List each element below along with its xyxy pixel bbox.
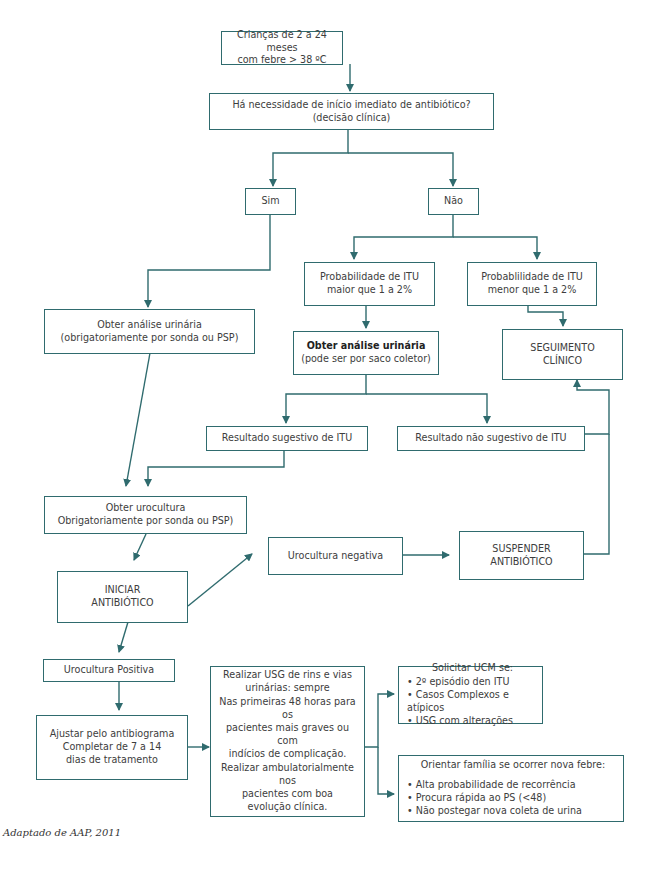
node-nao-label: Não — [444, 195, 463, 208]
node-seguimento-line-1: SEGUIMENTO — [530, 342, 594, 355]
node-prob-maior-line-2: maior que 1 a 2% — [327, 284, 412, 297]
node-orientar-item: Procura rápida ao PS (<48) — [407, 792, 546, 805]
node-sim: Sim — [245, 188, 296, 215]
node-usg: Realizar USG de rins e vias urinárias: s… — [210, 666, 365, 817]
node-start-line-2: com febre > 38 ºC — [237, 54, 326, 67]
node-urocultura: Obter urocultura Obrigatoriamente por so… — [44, 496, 247, 534]
node-usg-p1-line-1: Realizar USG de rins e vias — [223, 669, 352, 682]
node-urocultura-line-2: Obrigatoriamente por sonda ou PSP) — [58, 515, 234, 528]
node-seguimento: SEGUIMENTO CLÍNICO — [502, 329, 623, 380]
node-ajustar-line-2: Completar de 7 a 14 — [63, 741, 162, 754]
node-orientar-item: Não postegar nova coleta de urina — [407, 805, 582, 818]
node-prob-menor: Probablilidade de ITU menor que 1 a 2% — [467, 262, 597, 306]
node-seguimento-line-2: CLÍNICO — [543, 355, 582, 368]
node-orientar-item: Alta probabilidade de recorrência — [407, 779, 576, 792]
node-prob-maior-line-1: Probabilidade de ITU — [320, 271, 419, 284]
node-resultado-sugestivo-label: Resultado sugestivo de ITU — [222, 432, 352, 445]
node-usg-p2-line-1: Nas primeiras 48 horas para os — [215, 696, 360, 722]
node-iniciar: INICIAR ANTIBIÓTICO — [57, 571, 188, 623]
node-urocultura-positiva-label: Urocultura Positiva — [64, 664, 154, 677]
node-usg-p2-line-2: pacientes mais graves ou com — [215, 722, 360, 748]
node-orientar: Orientar família se ocorrer nova febre: … — [398, 755, 624, 822]
node-usg-p3-line-3: evolução clínica. — [248, 801, 328, 814]
node-usg-p2-line-3: indícios de complicação. — [229, 748, 346, 761]
node-ucm-title: Solicitar UCM se: — [432, 662, 513, 675]
node-usg-p1-line-2: urinárias: sempre — [245, 682, 329, 695]
node-ajustar: Ajustar pelo antibiograma Completar de 7… — [36, 715, 188, 780]
node-prob-menor-line-2: menor que 1 a 2% — [488, 284, 577, 297]
node-analise-saco-title: Obter análise urinária — [307, 340, 426, 353]
node-suspender-line-2: ANTIBIÓTICO — [490, 556, 552, 569]
node-analise-saco: Obter análise urinária (pode ser por sac… — [293, 331, 439, 375]
node-analise-sonda-line-2: (obrigatoriamente por sonda ou PSP) — [61, 332, 239, 345]
node-suspender-line-1: SUSPENDER — [492, 543, 550, 556]
node-start: Crianças de 2 a 24 meses com febre > 38 … — [221, 31, 343, 65]
node-iniciar-line-2: ANTIBIÓTICO — [91, 597, 153, 610]
node-ucm-item: Casos Complexos e atípicos — [407, 689, 538, 715]
node-orientar-title: Orientar família se ocorrer nova febre: — [421, 759, 605, 772]
node-iniciar-line-1: INICIAR — [105, 584, 141, 597]
node-urocultura-line-1: Obter urocultura — [106, 502, 186, 515]
node-urocultura-positiva: Urocultura Positiva — [43, 659, 175, 682]
node-resultado-nao-sugestivo: Resultado não sugestivo de ITU — [397, 426, 585, 451]
node-usg-p3-line-1: Realizar ambulatorialmente nos — [215, 762, 360, 788]
node-start-line-1: Crianças de 2 a 24 meses — [226, 29, 338, 55]
footnote-source: Adaptado de AAP, 2011 — [3, 827, 121, 838]
node-prob-maior: Probabilidade de ITU maior que 1 a 2% — [304, 262, 435, 306]
node-nao: Não — [428, 188, 479, 215]
node-ajustar-line-1: Ajustar pelo antibiograma — [50, 728, 175, 741]
node-sim-label: Sim — [261, 195, 279, 208]
node-decision: Há necessidade de início imediato de ant… — [209, 93, 494, 130]
node-urocultura-negativa: Urocultura negativa — [268, 537, 403, 575]
node-ucm-item: 2º episódio den ITU — [407, 676, 509, 689]
node-urocultura-negativa-label: Urocultura negativa — [288, 550, 383, 563]
node-decision-line-1: Há necessidade de início imediato de ant… — [232, 99, 470, 112]
node-suspender: SUSPENDER ANTIBIÓTICO — [459, 531, 584, 580]
node-usg-p3-line-2: pacientes com boa — [242, 788, 333, 801]
node-decision-line-2: (decisão clínica) — [313, 112, 391, 125]
node-ucm: Solicitar UCM se: 2º episódio den ITU Ca… — [398, 666, 543, 724]
node-analise-sonda: Obter análise urinária (obrigatoriamente… — [44, 309, 255, 354]
node-resultado-nao-sugestivo-label: Resultado não sugestivo de ITU — [415, 432, 566, 445]
node-resultado-sugestivo: Resultado sugestivo de ITU — [206, 426, 368, 451]
node-analise-sonda-line-1: Obter análise urinária — [97, 319, 202, 332]
node-analise-saco-subtitle: (pode ser por saco coletor) — [301, 353, 431, 366]
node-ucm-item: USG com alterações — [407, 715, 513, 728]
node-ajustar-line-3: dias de tratamento — [66, 754, 158, 767]
node-prob-menor-line-1: Probablilidade de ITU — [481, 271, 583, 284]
